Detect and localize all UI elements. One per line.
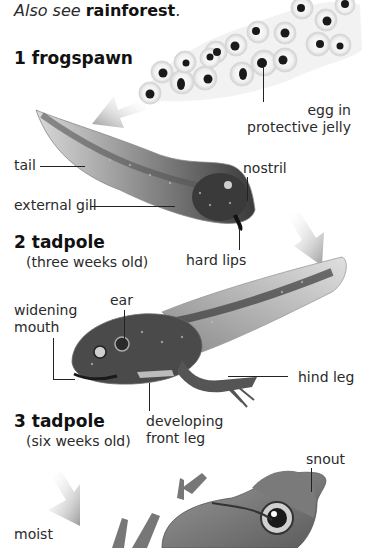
label-mouth: mouth — [14, 319, 59, 336]
stage-3-heading: 3 tadpole — [14, 411, 105, 431]
hind-leg-leader-line — [228, 376, 288, 377]
stage-1-title: frogspawn — [32, 48, 133, 68]
label-developing: developing — [146, 413, 223, 430]
stage-1-number: 1 — [14, 48, 26, 68]
stage-2-heading: 2 tadpole — [14, 232, 105, 252]
stage-3-title: tadpole — [32, 411, 105, 431]
stage-3-number: 3 — [14, 411, 26, 431]
stage-2-title: tadpole — [32, 232, 105, 252]
label-snout: snout — [306, 451, 345, 468]
tail-leader-line — [40, 166, 85, 167]
egg-leader-line — [263, 66, 264, 102]
label-hind-leg: hind leg — [298, 369, 354, 386]
label-widening: widening — [14, 302, 77, 319]
hard-lips-leader-line — [239, 228, 240, 250]
widening-mouth-leader-vertical — [53, 338, 54, 380]
label-moist: moist — [14, 526, 53, 543]
stage-2-number: 2 — [14, 232, 26, 252]
older-tadpole-illustration — [62, 252, 362, 412]
froglet-illustration — [92, 458, 352, 548]
label-nostril: nostril — [243, 160, 287, 177]
stage-1-heading: 1 frogspawn — [14, 48, 133, 68]
snout-leader-line — [311, 468, 312, 492]
external-gill-leader-line — [90, 206, 175, 207]
ear-leader-line — [124, 310, 125, 342]
label-tail: tail — [14, 157, 36, 174]
arrow-down-icon — [42, 470, 92, 530]
label-ear: ear — [110, 292, 133, 309]
label-front-leg: front leg — [146, 430, 205, 447]
nostril-leader-line — [247, 177, 248, 201]
stage-3-subtitle: (six weeks old) — [26, 433, 131, 449]
developing-front-leg-leader-line — [149, 383, 150, 411]
widening-mouth-leader-horizontal — [53, 379, 75, 380]
label-external-gill: external gill — [14, 197, 97, 214]
label-egg-in: egg in — [307, 102, 351, 119]
